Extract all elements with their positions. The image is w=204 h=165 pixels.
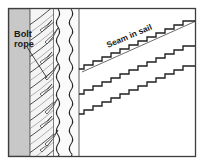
bolt-rope-label-line1: Bolt <box>14 29 32 39</box>
bolt-rope-sail-figure: Bolt rope Seam in sail <box>0 0 204 165</box>
figure-canvas: Bolt rope Seam in sail <box>0 0 204 165</box>
bolt-rope-label: Bolt rope <box>14 29 34 49</box>
bolt-rope-label-line2: rope <box>14 39 34 49</box>
